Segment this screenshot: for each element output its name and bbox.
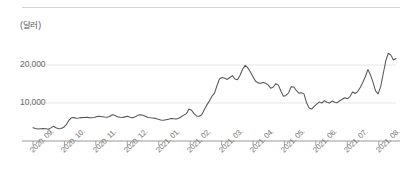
y-axis-tick-label: 10,000	[20, 97, 45, 107]
line-chart-plot	[0, 0, 411, 194]
y-axis-tick-label: 20,000	[20, 59, 45, 69]
gridlines	[21, 65, 396, 103]
chart-container: (달러) 10,00020,000 2020. 09.2020. 10.2020…	[0, 0, 411, 194]
